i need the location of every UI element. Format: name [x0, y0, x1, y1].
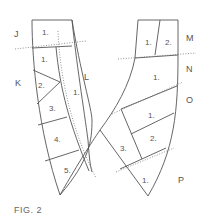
panel-label-K-4: 4. — [54, 135, 61, 144]
panel-label-N-1: 1. — [153, 73, 160, 82]
panel-label-M-2: 2. — [165, 38, 172, 47]
panel-label-O-2: 2. — [150, 134, 157, 143]
panel-label-M-1: 1. — [145, 38, 152, 47]
side-label-M: M — [186, 33, 194, 43]
side-label-O: O — [186, 95, 193, 105]
side-label-J: J — [14, 29, 19, 39]
panel-label-O-3: 3. — [120, 144, 127, 153]
panel-label-K-3: 3. — [49, 104, 56, 113]
panel-label-K-1: 1. — [41, 55, 48, 64]
panel-label-O-1: 1. — [148, 111, 155, 120]
figure-caption: FIG. 2 — [14, 205, 42, 215]
panel-label-K-5: 5. — [64, 166, 71, 175]
right-piece — [60, 20, 196, 196]
side-label-N: N — [186, 64, 193, 74]
panel-label-J-1: 1. — [42, 28, 49, 37]
side-label-P: P — [178, 175, 184, 185]
panel-label-K-2: 2. — [38, 81, 45, 90]
quilt-pattern-diagram: 1. 1. 2. 3. 4. 5. 1. 1. 2. 1. 1. 2. 3. 1… — [0, 0, 204, 218]
side-label-L: L — [84, 72, 89, 82]
panel-label-L-1: 1. — [73, 88, 80, 97]
side-label-K: K — [15, 78, 21, 88]
panel-label-P-1: 1. — [142, 176, 149, 185]
